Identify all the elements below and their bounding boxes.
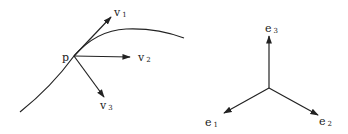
curve-diagram: p v1 v2 v3 xyxy=(20,6,184,112)
vector-v1-arrow xyxy=(74,17,111,56)
vector-v2-arrow xyxy=(74,56,130,57)
diagram-canvas: p v1 v2 v3 e3 e1 e2 xyxy=(0,0,348,134)
basis-frame-diagram: e3 e1 e2 xyxy=(205,22,332,129)
basis-e1-label: e1 xyxy=(205,116,218,129)
basis-e2-label: e2 xyxy=(319,115,332,128)
basis-e2-arrow xyxy=(269,88,318,115)
basis-e3-label: e3 xyxy=(265,22,278,35)
vector-v1-label: v1 xyxy=(113,6,127,19)
basis-e1-arrow xyxy=(224,88,269,113)
vector-v3-arrow xyxy=(74,56,104,97)
point-p-label: p xyxy=(62,51,69,64)
vector-v2-label: v2 xyxy=(137,51,151,64)
vector-v3-label: v3 xyxy=(99,99,113,112)
